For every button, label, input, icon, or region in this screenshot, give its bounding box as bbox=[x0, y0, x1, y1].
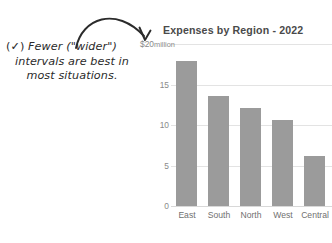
bar-slot-north bbox=[235, 44, 267, 206]
xlabel-east: East bbox=[170, 210, 204, 220]
bar-slot-central bbox=[299, 44, 331, 206]
annotation-line-2: intervals are best in bbox=[2, 55, 142, 70]
bars-group bbox=[171, 44, 332, 206]
bar-west[interactable] bbox=[272, 120, 293, 206]
xlabel-west: West bbox=[266, 210, 300, 220]
bar-east[interactable] bbox=[176, 61, 197, 206]
chart-title: Expenses by Region - 2022 bbox=[163, 24, 303, 36]
bar-central[interactable] bbox=[304, 156, 325, 206]
ytick-label-10: 10 bbox=[129, 120, 169, 130]
ytick-label-0: 0 bbox=[129, 201, 169, 211]
ytick-label-15: 15 bbox=[129, 80, 169, 90]
x-axis-labels: East South North West Central bbox=[171, 210, 332, 228]
screenshot-root: (✓) Fewer ("wider") intervals are best i… bbox=[0, 0, 332, 243]
annotation-line-3: most situations. bbox=[2, 69, 142, 84]
bar-slot-south bbox=[203, 44, 235, 206]
ytick-label-20: $20million bbox=[140, 39, 175, 49]
axis-baseline bbox=[171, 206, 332, 207]
ytick-label-5: 5 bbox=[129, 161, 169, 171]
plot-area: $20million 15 10 5 0 East South North We… bbox=[140, 44, 332, 216]
checkmark-icon: (✓) bbox=[6, 40, 24, 53]
bar-chart: Expenses by Region - 2022 $20million 15 … bbox=[140, 20, 332, 243]
xlabel-north: North bbox=[234, 210, 268, 220]
xlabel-central: Central bbox=[298, 210, 332, 220]
xlabel-south: South bbox=[202, 210, 236, 220]
bar-slot-west bbox=[267, 44, 299, 206]
bar-south[interactable] bbox=[208, 96, 229, 206]
bar-slot-east bbox=[171, 44, 203, 206]
bar-north[interactable] bbox=[240, 108, 261, 206]
